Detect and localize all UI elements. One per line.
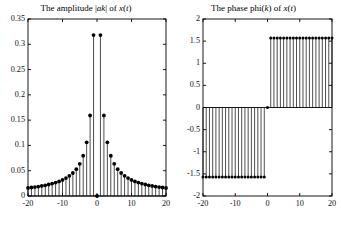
stem-marker	[253, 176, 256, 179]
stem-marker	[78, 162, 82, 166]
x-tick-label: 10	[117, 199, 147, 208]
y-tick-label: -0.5	[187, 125, 200, 134]
stem-marker	[40, 184, 44, 188]
stem-marker	[243, 176, 246, 179]
stem-marker	[57, 179, 61, 183]
stem-marker	[218, 176, 221, 179]
stem-marker	[68, 174, 72, 178]
y-tick-label: 0.05	[11, 166, 25, 175]
x-tick-label: -10	[48, 199, 78, 208]
stem-marker	[282, 36, 285, 39]
stem-marker	[314, 36, 317, 39]
y-tick-label: 0.3	[15, 39, 25, 48]
stem-marker	[64, 176, 68, 180]
stem-marker	[227, 176, 230, 179]
stem-marker	[305, 36, 308, 39]
stem-marker	[247, 176, 250, 179]
stem-marker	[205, 176, 208, 179]
stem-marker	[331, 36, 334, 39]
stem-marker	[161, 186, 165, 190]
stem-marker	[234, 176, 237, 179]
amplitude-plot-area	[0, 0, 172, 227]
x-tick-label: 0	[253, 199, 283, 208]
x-tick-label: -10	[220, 199, 250, 208]
stem-marker	[256, 176, 259, 179]
y-tick-label: -1	[193, 147, 200, 156]
stem-marker	[95, 194, 99, 198]
stem-marker	[47, 183, 51, 187]
stem-marker	[298, 36, 301, 39]
stem-marker	[109, 154, 113, 158]
stem-marker	[157, 185, 161, 189]
stem-marker	[240, 176, 243, 179]
stem-marker	[123, 174, 127, 178]
stem-marker	[33, 185, 37, 189]
x-tick-label: 10	[285, 199, 315, 208]
stem-marker	[150, 184, 154, 188]
stem-marker	[99, 33, 103, 37]
stem-marker	[263, 176, 266, 179]
stem-marker	[327, 36, 330, 39]
stem-marker	[50, 182, 54, 186]
stem-marker	[133, 179, 137, 183]
stem-marker	[126, 176, 130, 180]
stem-marker	[71, 171, 75, 175]
stem-marker	[36, 185, 40, 189]
stem-marker	[292, 36, 295, 39]
y-tick-label: 0.25	[11, 65, 25, 74]
stem-marker	[88, 114, 92, 118]
axes-box	[28, 19, 166, 196]
stem-marker	[324, 36, 327, 39]
stem-marker	[143, 183, 147, 187]
stem-marker	[260, 176, 263, 179]
phase-plot-panel: The phase phi(k) of x(t) -2-1.5-1-0.500.…	[172, 0, 335, 227]
stem-marker	[208, 176, 211, 179]
stem-marker	[74, 167, 78, 171]
stem-marker	[318, 36, 321, 39]
y-tick-label: 2	[196, 14, 200, 23]
stem-marker	[154, 185, 158, 189]
stem-marker	[140, 182, 144, 186]
stem-marker	[26, 186, 30, 190]
stem-marker	[295, 36, 298, 39]
stem-marker	[250, 176, 253, 179]
y-tick-label: 0.35	[11, 14, 25, 23]
x-tick-label: -20	[188, 199, 218, 208]
stem-marker	[321, 36, 324, 39]
stem-marker	[211, 176, 214, 179]
y-tick-label: 1.5	[190, 36, 200, 45]
stem-marker	[119, 171, 123, 175]
stem-marker	[308, 36, 311, 39]
stem-marker	[43, 183, 47, 187]
y-tick-label: 0.1	[15, 140, 25, 149]
stem-marker	[289, 36, 292, 39]
stem-series	[26, 33, 168, 198]
stem-marker	[116, 167, 120, 171]
stem-marker	[279, 36, 282, 39]
stem-marker	[311, 36, 314, 39]
x-tick-label: 20	[317, 199, 341, 208]
stem-marker	[92, 33, 96, 37]
stem-marker	[30, 186, 34, 190]
stem-marker	[105, 140, 109, 144]
y-tick-label: 0.2	[15, 90, 25, 99]
stem-marker	[301, 36, 304, 39]
y-tick-label: 1	[196, 58, 200, 67]
stem-marker	[164, 186, 168, 190]
stem-marker	[214, 176, 217, 179]
y-tick-label: -1.5	[187, 169, 200, 178]
stem-marker	[147, 183, 151, 187]
y-tick-label: 0.5	[190, 80, 200, 89]
amplitude-plot-panel: The amplitude |ak| of x(t) 00.050.10.150…	[0, 0, 172, 227]
stem-marker	[269, 36, 272, 39]
x-tick-label: -20	[13, 199, 43, 208]
stem-marker	[266, 106, 269, 109]
stem-marker	[276, 36, 279, 39]
stem-marker	[130, 178, 134, 182]
stem-marker	[102, 114, 106, 118]
stem-marker	[112, 162, 116, 166]
stem-marker	[221, 176, 224, 179]
stem-marker	[61, 178, 65, 182]
x-tick-label: 0	[82, 199, 112, 208]
